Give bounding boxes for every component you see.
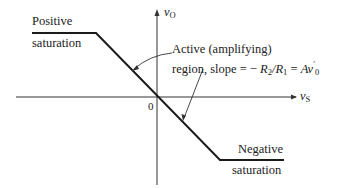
origin-label: 0	[148, 99, 154, 113]
pointer-arrow-upper	[134, 53, 172, 69]
x-axis-label: vS	[300, 89, 310, 106]
x-axis-label-sub: S	[306, 94, 311, 104]
transfer-characteristic-diagram: Positive saturation vO vS 0 Active (ampl…	[0, 0, 339, 189]
active-region-label-line1: Active (amplifying)	[172, 42, 272, 56]
y-axis-label-sub: O	[170, 10, 176, 20]
diagram-canvas	[0, 0, 339, 189]
negative-saturation-label-line2: saturation	[232, 163, 281, 177]
slope-prefix: region, slope = −	[172, 62, 260, 76]
r1-var: R	[275, 62, 283, 76]
equals: =	[287, 62, 300, 76]
r2-var: R	[260, 62, 268, 76]
positive-saturation-label-line1: Positive	[32, 14, 72, 28]
positive-saturation-label-line2: saturation	[32, 36, 81, 50]
gain-var: Av	[301, 62, 314, 76]
x-axis-arrow-icon	[291, 95, 297, 100]
y-axis-label: vO	[164, 5, 176, 22]
active-region-label-line2: region, slope = − R2/R1 = Av′0	[172, 57, 319, 79]
y-axis-arrow-icon	[155, 9, 160, 16]
gain-sub-digit: 0	[315, 67, 319, 77]
gain-sub: ′0	[313, 67, 319, 77]
negative-saturation-label-line1: Negative	[238, 142, 283, 156]
